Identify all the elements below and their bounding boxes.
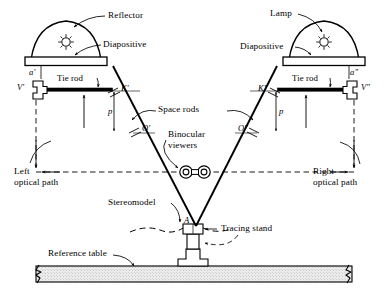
label-model-point-a: A [184,215,189,225]
label-p-left: p [108,106,112,116]
label-left-optical-path-line1: Left [14,166,30,176]
label-o-left: O' [142,123,150,133]
right-projector [278,21,366,99]
label-a-right: a" [350,67,358,77]
label-reference-table: Reference table [48,248,107,258]
leader-left-optical-path [30,141,51,163]
leader-right-optical-path [340,142,360,164]
right-optical-path-route [210,90,354,172]
leader-reflector [74,16,105,27]
label-right-optical-path-line1: Right [313,166,334,176]
label-tracing-stand: Tracing stand [221,223,272,233]
label-stereomodel: Stereomodel [108,197,156,207]
label-diapositive-left: Diapositive [103,39,146,49]
label-binocular-viewers-line2: viewers [168,140,197,150]
label-tie-rod-left: Tie rod [57,73,83,83]
label-tie-rod-right: Tie rod [292,73,318,83]
leader-diapositive-right [295,47,311,55]
label-binocular-viewers-line1: Binocular [168,129,205,139]
label-o-right: O" [238,123,248,133]
label-k-left: K' [121,83,129,93]
right-optical-path-arrows [306,95,354,172]
leader-tie-rod-right [330,78,331,87]
label-left-optical-path-line2: optical path [14,177,58,187]
left-lamp-bulb [58,34,74,50]
left-optical-path-arrows [36,95,84,172]
leader-lamp [298,14,322,32]
leader-diapositive-left [75,45,101,55]
label-a-left: a' [29,67,35,77]
label-space-rods: Space rods [158,104,199,114]
label-diapositive-right: Diapositive [240,41,283,51]
label-v-right: V" [361,82,370,92]
leader-stereomodel [171,203,180,222]
label-k-right: K" [258,83,268,93]
stereomodel-surface [130,228,231,232]
label-right-optical-path-line2: optical path [313,177,357,187]
right-lamp-bulb [316,34,332,50]
label-p-right: p [279,106,283,116]
leader-reference-table [113,255,134,266]
label-reflector: Reflector [108,10,143,20]
left-projector [25,21,113,99]
leader-tie-rod-left [97,78,98,87]
diagram-canvas: Reflector Lamp Diapositive Diapositive a… [0,0,389,295]
binocular-viewers-glyph [180,166,210,178]
label-lamp: Lamp [270,8,292,18]
reference-table-graphic [36,265,352,283]
tracing-stand-graphic [178,224,208,266]
left-optical-path-route [36,90,180,172]
label-v-left: V' [17,82,24,92]
